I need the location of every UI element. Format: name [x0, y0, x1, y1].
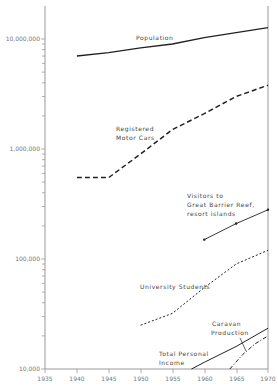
label-cars-line2: Motor Cars — [116, 134, 155, 141]
label-caravan-line1: Caravan — [212, 320, 241, 327]
x-tick-labels: 1935 1940 1945 1950 1955 1960 1965 1970 — [37, 375, 275, 382]
label-university: University Students — [140, 283, 210, 291]
caravan-pointer — [240, 338, 246, 351]
series-labels: Population Registered Motor Cars Visitor… — [116, 34, 255, 366]
y-ticks — [41, 39, 45, 369]
label-income-line2: Income — [159, 359, 185, 366]
series-motor-cars — [77, 85, 268, 177]
chart: 10,000 100,000 1,000,000 10,000,000 1935… — [0, 0, 278, 386]
series-population — [77, 28, 268, 56]
label-reef-line1: Visitors to — [187, 192, 224, 199]
x-label-1945: 1945 — [101, 375, 116, 382]
label-population: Population — [136, 34, 174, 42]
label-reef-line2: Great Barrier Reef, — [187, 201, 255, 208]
label-cars-line1: Registered — [116, 125, 154, 133]
y-label-10m: 10,000,000 — [6, 35, 41, 42]
x-ticks — [45, 369, 268, 373]
x-label-1950: 1950 — [133, 375, 148, 382]
x-label-1960: 1960 — [197, 375, 212, 382]
label-reef-line3: resort islands — [187, 210, 236, 217]
y-label-10k: 10,000 — [19, 365, 40, 372]
y-label-100k: 100,000 — [15, 255, 40, 262]
y-label-1m: 1,000,000 — [9, 145, 40, 152]
x-label-1970: 1970 — [260, 375, 275, 382]
x-label-1935: 1935 — [37, 375, 52, 382]
label-caravan-line2: Production — [211, 329, 249, 336]
label-income-line1: Total Personal — [158, 350, 209, 357]
series-caravan-production — [230, 336, 268, 369]
y-tick-labels: 10,000 100,000 1,000,000 10,000,000 — [6, 35, 41, 372]
x-label-1940: 1940 — [69, 375, 84, 382]
x-label-1955: 1955 — [165, 375, 180, 382]
x-label-1965: 1965 — [229, 375, 244, 382]
